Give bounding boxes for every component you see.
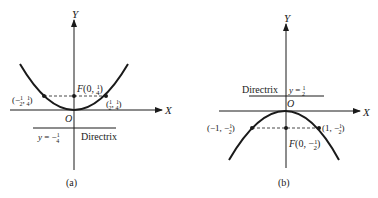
focus-label-b: F(0, −12) [288, 138, 320, 152]
directrix-equation-b: y = 12 [288, 85, 306, 97]
directrix-equation-a: y = −14 [37, 132, 60, 144]
panel-b: X Y O (−1, −12) (1, −12) F(0, −12) Direc… [207, 12, 371, 189]
y-axis-label-b: Y [284, 12, 292, 24]
origin-label-b: O [287, 98, 294, 109]
x-axis-label-a: X [164, 104, 173, 116]
caption-a: (a) [66, 177, 77, 189]
focus-point-a [72, 94, 76, 98]
svg-text:y = −14: y = −14 [37, 132, 60, 144]
svg-text:(1, −12): (1, −12) [322, 123, 345, 135]
left-point-b [250, 126, 254, 130]
left-point-label-a: (−12, 14) [12, 95, 33, 107]
directrix-label-b: Directrix [242, 84, 278, 95]
svg-text:y = 12: y = 12 [288, 85, 306, 97]
focus-label-a: F(0, 14) [76, 83, 103, 97]
right-point-label-a: (12, 14) [106, 99, 122, 111]
caption-b: (b) [278, 177, 290, 189]
right-point-label-b: (1, −12) [322, 123, 345, 135]
right-point-a [104, 94, 108, 98]
y-axis-label-a: Y [72, 8, 80, 20]
panel-a: X Y O F(0, 14) (−12, 14) (12, 14) y = −1… [10, 8, 173, 189]
parabola-curve-b [229, 111, 339, 160]
svg-text:(12, 14): (12, 14) [106, 99, 122, 111]
svg-text:(−12, 14): (−12, 14) [12, 95, 33, 107]
svg-text:F(0, −12): F(0, −12) [288, 138, 320, 152]
origin-label-a: O [65, 113, 72, 124]
right-point-b [317, 126, 321, 130]
svg-text:F(0, 14): F(0, 14) [76, 83, 103, 97]
svg-text:(−1, −12): (−1, −12) [207, 123, 235, 135]
left-point-label-b: (−1, −12) [207, 123, 235, 135]
parabola-figures: X Y O F(0, 14) (−12, 14) (12, 14) y = −1… [0, 0, 378, 198]
directrix-label-a: Directrix [81, 131, 117, 142]
left-point-a [42, 94, 46, 98]
x-axis-label-b: X [362, 106, 371, 118]
focus-point-b [284, 126, 288, 130]
